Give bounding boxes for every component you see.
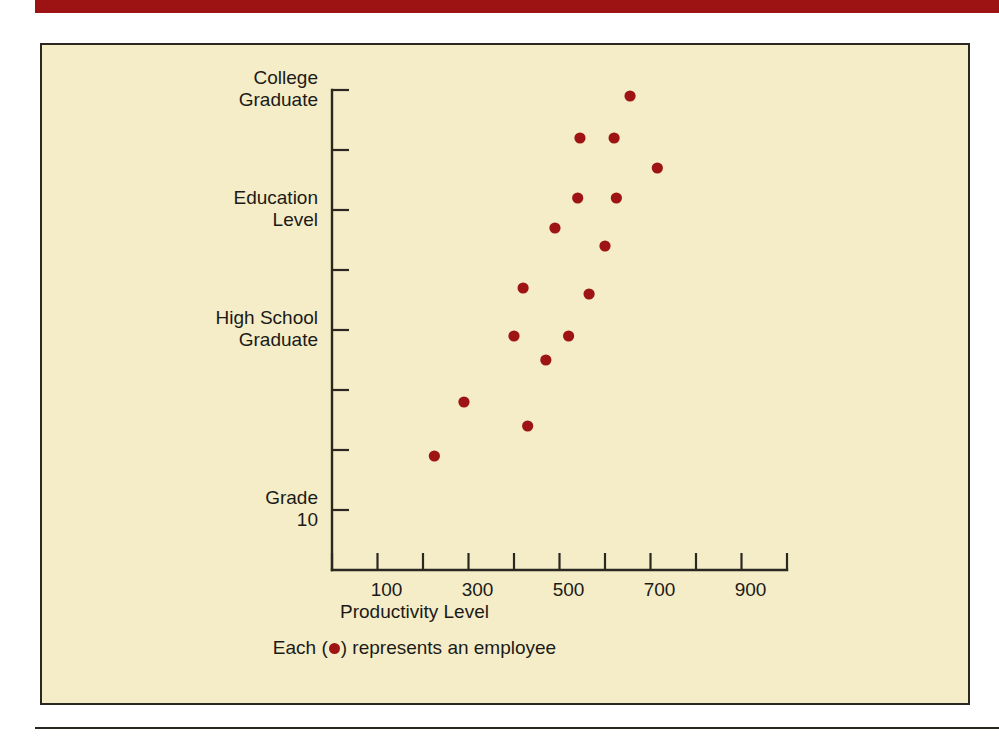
legend-prefix: Each ( (273, 637, 328, 658)
x-axis-tick-label: 900 (735, 579, 767, 600)
data-point (522, 420, 533, 431)
legend-caption: Each () represents an employee (42, 637, 787, 659)
red-dot-icon (329, 643, 340, 654)
data-point (549, 222, 560, 233)
scatter-plot: 100300500700900 College GraduateEducatio… (42, 45, 972, 707)
y-axis-ticks (332, 90, 349, 510)
data-point (540, 354, 551, 365)
y-axis-tick-label: Education Level (88, 187, 318, 231)
data-points (429, 90, 663, 461)
top-banner (35, 0, 999, 13)
y-axis-tick-label: College Graduate (88, 67, 318, 111)
x-axis-tick-label: 300 (462, 579, 494, 600)
data-point (572, 192, 583, 203)
x-axis-tick-label: 700 (644, 579, 676, 600)
data-point (599, 240, 610, 251)
y-axis-tick-label: Grade 10 (88, 487, 318, 531)
x-axis-ticks (332, 553, 787, 570)
y-axis-tick-label: High School Graduate (88, 307, 318, 351)
x-axis-tick-label: 100 (371, 579, 403, 600)
axes (332, 90, 787, 570)
data-point (574, 132, 585, 143)
data-point (518, 282, 529, 293)
data-point (611, 192, 622, 203)
data-point (624, 90, 635, 101)
data-point (508, 330, 519, 341)
data-point (609, 132, 620, 143)
data-point (583, 288, 594, 299)
x-axis-tick-label: 500 (553, 579, 585, 600)
data-point (429, 450, 440, 461)
data-point (652, 162, 663, 173)
figure-panel: 100300500700900 College GraduateEducatio… (40, 43, 970, 705)
bottom-rule (35, 727, 999, 729)
legend-suffix: ) represents an employee (341, 637, 556, 658)
x-axis-tick-labels: 100300500700900 (371, 579, 767, 600)
data-point (563, 330, 574, 341)
x-axis-title: Productivity Level (42, 601, 787, 623)
data-point (458, 396, 469, 407)
